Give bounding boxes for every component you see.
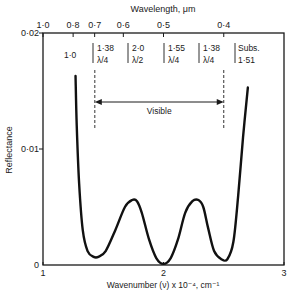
top-tick-label: 0·5: [157, 20, 170, 30]
layer-structure-labels: 1·01·38λ/42·0λ/21·55λ/41·38λ/4Subs.1·51: [64, 43, 260, 65]
x-tick-label: 2: [161, 268, 166, 278]
top-tick-label: 0·4: [217, 20, 230, 30]
y-tick-label: 0·02: [21, 28, 39, 38]
layer-thickness-label: λ/4: [97, 55, 109, 65]
arrow-left-icon: [95, 99, 102, 105]
layer-index-label: Subs.: [238, 43, 260, 53]
arrow-right-icon: [217, 99, 224, 105]
layer-thickness-label: λ/4: [203, 55, 215, 65]
x-axis-title: Wavenumber (ν) x 10⁻⁴, cm⁻¹: [107, 280, 220, 290]
layer-index-label: 1·38: [97, 43, 114, 53]
y-tick-label: 0·01: [21, 144, 39, 154]
layer-thickness-label: λ/2: [132, 55, 144, 65]
y-axis-title: Reflectance: [4, 126, 14, 174]
layer-index-label: 2·0: [132, 43, 145, 53]
y-tick-label: 0: [34, 260, 39, 270]
top-axis-title: Wavelength, μm: [131, 4, 196, 14]
top-tick-label: 0·8: [67, 20, 80, 30]
layer-index-label: 1·38: [203, 43, 220, 53]
y-axis-ticks: 00·010·02: [21, 28, 43, 270]
plot-frame: [43, 33, 284, 265]
visible-label: Visible: [147, 106, 172, 116]
layer-index-label: 1·55: [168, 43, 185, 53]
layer-thickness-label: 1·51: [238, 55, 255, 65]
reflectance-chart: Wavelength, μm 1·00·80·70·60·50·4 00·010…: [0, 0, 295, 296]
layer-index-label: 1·0: [64, 50, 77, 60]
top-axis-ticks: 1·00·80·70·60·50·4: [36, 20, 230, 37]
visible-range-marker: Visible: [95, 70, 224, 130]
layer-thickness-label: λ/4: [168, 55, 180, 65]
top-tick-label: 0·7: [88, 20, 101, 30]
top-tick-label: 0·6: [117, 20, 130, 30]
x-tick-label: 1: [40, 268, 45, 278]
x-tick-label: 3: [281, 268, 286, 278]
